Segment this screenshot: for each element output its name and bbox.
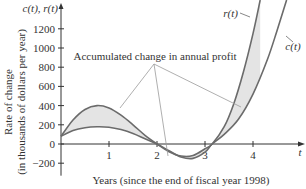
chart: −2000200400600800100012001234 Accumulate… [0,0,306,189]
y-tick-label: 0 [50,138,56,150]
y-tick-label: 600 [39,80,56,92]
y-tick-label: 400 [39,100,56,112]
x-axis-title: Years (since the end of fiscal year 1998… [93,174,270,187]
x-tick-label: 4 [250,149,256,161]
y-tick-label: 1200 [33,23,56,35]
x-tick-label: 2 [154,149,160,161]
y-tick-label: 800 [39,61,56,73]
accumulated-change-fill [61,0,260,158]
y-axis-arrow [59,3,64,9]
annotation-label: Accumulated change in annual profit [73,50,236,62]
y-axis-title-line2: (in thousands of dollars per year) [15,29,28,175]
annotation-leader-line [120,64,154,108]
x-tick-label: 1 [106,149,112,161]
series-label-r: r(t) [223,7,238,20]
y-axis-name: c(t), r(t) [23,2,59,15]
annotation-leader-line [154,64,241,107]
x-axis-name: t [298,146,302,158]
series-label-r-leader [240,13,250,17]
y-tick-label: −200 [32,157,55,169]
series-label-c: c(t) [285,40,301,53]
ticks: −2000200400600800100012001234 [32,23,256,169]
y-tick-label: 200 [39,119,56,131]
y-tick-label: 1000 [33,42,56,54]
fill-region [61,0,260,158]
axes [59,3,306,176]
y-axis-title-line1: Rate of change [2,69,14,135]
series-line-r [61,0,260,156]
annotation-leader-line [154,64,168,156]
